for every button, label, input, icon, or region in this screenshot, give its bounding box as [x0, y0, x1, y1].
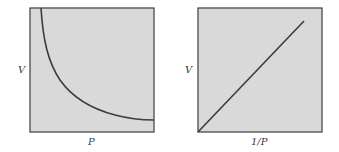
boyles-law-figure: V P V 1/P: [0, 0, 339, 152]
x-axis-label-right: 1/P: [251, 137, 267, 147]
panel-v-vs-p: [30, 8, 154, 132]
plots-canvas: [0, 0, 339, 152]
x-axis-label-left: P: [88, 137, 95, 147]
y-axis-label-right: V: [185, 65, 192, 75]
plot-area-left: [30, 8, 154, 132]
panel-v-vs-inverse-p: [198, 8, 322, 132]
y-axis-label-left: V: [18, 65, 25, 75]
